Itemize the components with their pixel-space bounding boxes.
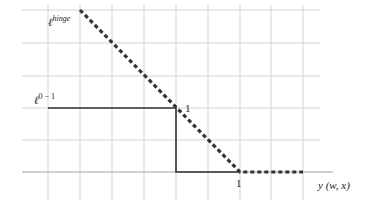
point-label-x-1: 1 <box>236 178 242 189</box>
zero-one-label: ℓ0 − 1 <box>34 95 55 106</box>
x-axis-label: y (w, x) <box>318 180 350 191</box>
hinge-label: ℓhinge <box>48 17 70 28</box>
hinge-loss-line <box>80 10 303 172</box>
point-label-y-1: 1 <box>185 103 191 114</box>
